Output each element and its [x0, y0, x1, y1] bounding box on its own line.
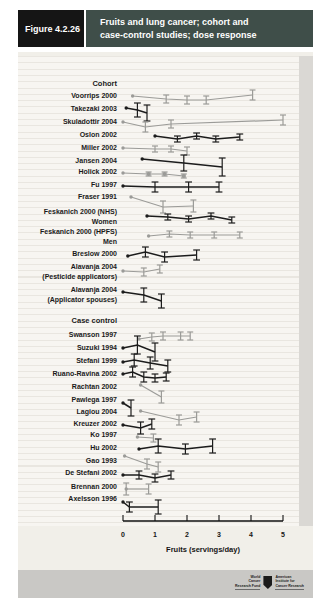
publisher-logos: WorldCancerResearch Fund AmericanInstitu…	[235, 575, 304, 590]
study-label: Fu 1997	[91, 180, 117, 190]
figure-number-label: Figure 4.2.26	[18, 10, 84, 47]
study-label: Alavanja 2004(Pesticide applicators)	[42, 262, 117, 282]
study-label: Alavanja 2004(Applicator spouses)	[47, 285, 117, 305]
x-tick-1: 1	[147, 531, 163, 538]
figure-number-text: Figure 4.2.26	[25, 24, 80, 34]
study-label: Holick 2002	[78, 167, 117, 177]
study-label: Pawlega 1997	[71, 395, 117, 405]
chart-right-margin	[299, 56, 313, 526]
study-label: Lagiou 2004	[77, 407, 117, 417]
study-label: Miller 2002	[81, 143, 117, 153]
figure-title-line1: Fruits and lung cancer; cohort and	[100, 16, 305, 29]
section-label: Cohort	[92, 79, 117, 89]
x-axis-label: Fruits (servings/day)	[123, 545, 283, 554]
study-label: Kreuzer 2002	[73, 419, 117, 429]
study-label: Oslon 2002	[80, 130, 117, 140]
x-tick-5: 5	[275, 531, 291, 538]
study-label: Rachtan 2002	[72, 382, 117, 392]
study-label: Fraser 1991	[78, 192, 117, 202]
study-label: Swanson 1997	[69, 330, 117, 340]
x-tick-2: 2	[179, 531, 195, 538]
study-label: Brennan 2000	[71, 482, 117, 492]
study-label: Skuladottir 2004	[63, 117, 117, 127]
x-tick-0: 0	[115, 531, 131, 538]
section-label: Case control	[72, 316, 117, 326]
study-label: Axelsson 1996	[68, 494, 117, 504]
study-label: Breslow 2000	[72, 249, 117, 259]
footer-bar: WorldCancerResearch Fund AmericanInstitu…	[18, 570, 313, 598]
study-label: Hu 2002	[90, 443, 117, 453]
study-label: De Stefani 2002	[65, 468, 117, 478]
wcrf-logo-text: WorldCancerResearch Fund	[235, 575, 260, 590]
aicr-logo-text: AmericanInstitute forCancer Research	[275, 575, 304, 590]
study-label: Feskanich 2000 (HPFS)Men	[40, 227, 117, 247]
figure-panel: Figure 4.2.26 Fruits and lung cancer; co…	[0, 0, 331, 615]
study-label: Jansen 2004	[75, 156, 117, 166]
study-label: Ko 1997	[90, 430, 117, 440]
x-tick-4: 4	[243, 531, 259, 538]
wcrf-aicr-logo-icon	[263, 576, 272, 589]
study-label: Gao 1993	[86, 456, 117, 466]
study-label: Stefani 1999	[76, 356, 117, 366]
study-label: Takezaki 2003	[71, 104, 117, 114]
study-label: Suzuki 1994	[77, 343, 117, 353]
study-label: Voorrips 2000	[71, 91, 117, 101]
study-label: Ruano-Ravina 2002	[52, 369, 117, 379]
x-tick-3: 3	[211, 531, 227, 538]
figure-title: Fruits and lung cancer; cohort and case-…	[86, 10, 313, 47]
figure-title-line2: case-control studies; dose response	[100, 29, 305, 42]
study-label: Feskanich 2000 (NHS)Women	[44, 207, 117, 227]
